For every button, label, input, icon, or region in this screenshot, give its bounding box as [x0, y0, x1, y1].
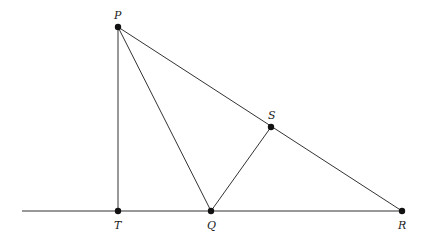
label-P: P — [113, 9, 122, 22]
segment-PR — [118, 27, 402, 211]
label-Q: Q — [207, 219, 216, 232]
segment-PQ — [118, 27, 211, 211]
label-S: S — [268, 109, 276, 122]
point-Q — [208, 208, 214, 214]
point-P — [115, 24, 121, 30]
point-T — [115, 208, 121, 214]
segment-SQ — [211, 127, 271, 211]
point-S — [268, 124, 274, 130]
geometry-diagram: P S T Q R — [0, 0, 424, 241]
label-T: T — [114, 219, 123, 232]
label-R: R — [397, 219, 406, 232]
point-R — [399, 208, 405, 214]
